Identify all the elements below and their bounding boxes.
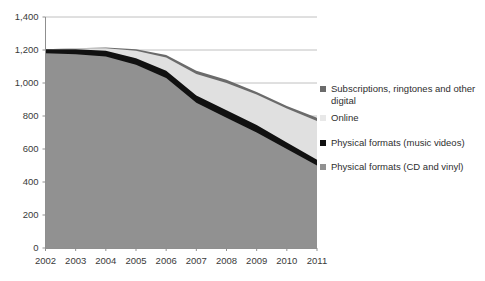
x-axis-ticks-group: 2002200320042005200620072008200920102011 (35, 248, 327, 266)
x-tick-label-2004: 2004 (95, 255, 116, 266)
legend-item-online[interactable]: Online (320, 112, 485, 124)
y-tick-label-200: 200 (23, 209, 39, 220)
y-tick-label-1200: 1,200 (15, 44, 39, 55)
y-tick-label-0: 0 (33, 242, 38, 253)
x-tick-label-2008: 2008 (216, 255, 237, 266)
x-tick-label-2006: 2006 (156, 255, 177, 266)
y-tick-label-800: 800 (23, 110, 39, 121)
y-axis-ticks-group: 02004006008001,0001,2001,400 (15, 11, 46, 253)
legend-item-cd-vinyl[interactable]: Physical formats (CD and vinyl) (320, 161, 485, 173)
x-tick-label-2003: 2003 (65, 255, 86, 266)
stacked-area-chart: 02004006008001,0001,2001,400 20022003200… (0, 0, 485, 281)
legend-label-cd-vinyl: Physical formats (CD and vinyl) (331, 161, 464, 173)
x-tick-label-2011: 2011 (307, 255, 327, 266)
area-series-group (46, 48, 318, 248)
y-tick-label-400: 400 (23, 176, 39, 187)
legend-label-subscriptions: Subscriptions, ringtones and other digit… (331, 83, 485, 106)
legend-item-subscriptions[interactable]: Subscriptions, ringtones and other digit… (320, 83, 485, 106)
x-tick-label-2007: 2007 (186, 255, 207, 266)
legend-swatch-cd-vinyl (320, 164, 326, 170)
x-tick-label-2002: 2002 (35, 255, 56, 266)
chart-legend: Subscriptions, ringtones and other digit… (320, 83, 485, 175)
y-tick-label-1400: 1,400 (15, 11, 39, 22)
legend-label-music-videos: Physical formats (music videos) (331, 137, 465, 149)
y-tick-label-1000: 1,000 (15, 77, 39, 88)
legend-label-online: Online (331, 112, 358, 124)
x-tick-label-2010: 2010 (276, 255, 297, 266)
legend-swatch-subscriptions (320, 86, 326, 92)
legend-swatch-music-videos (320, 140, 326, 146)
x-tick-label-2009: 2009 (246, 255, 267, 266)
legend-swatch-online (320, 115, 326, 121)
y-tick-label-600: 600 (23, 143, 39, 154)
legend-item-music-videos[interactable]: Physical formats (music videos) (320, 137, 485, 149)
x-tick-label-2005: 2005 (125, 255, 146, 266)
